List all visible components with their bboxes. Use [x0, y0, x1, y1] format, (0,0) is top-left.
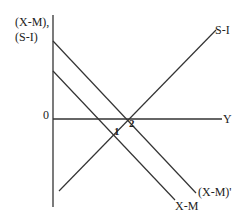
intersection-2-label: 2: [129, 117, 135, 129]
diagram-canvas: (X-M), (S-I) 0 Y S-I X-M (X-M)' 1 2: [0, 0, 247, 218]
intersection-1-label: 1: [114, 125, 120, 137]
x-m-shifted-label: (X-M)': [198, 185, 232, 199]
curve-s-i: [59, 30, 216, 191]
x-m-label: X-M: [175, 199, 199, 213]
curve-x-m-shifted: [53, 41, 196, 193]
y-axis-label-line2: (S-I): [15, 30, 38, 44]
s-i-label: S-I: [215, 23, 230, 37]
origin-label: 0: [43, 108, 49, 122]
y-axis-label-line1: (X-M),: [15, 15, 49, 29]
x-axis-label: Y: [223, 112, 232, 126]
